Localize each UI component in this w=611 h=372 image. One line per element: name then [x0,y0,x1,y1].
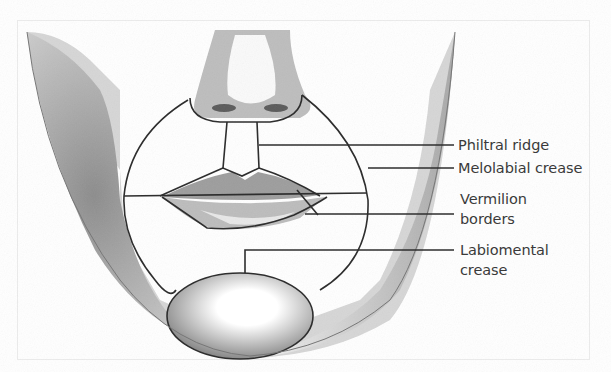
labiomental-ellipse [167,273,313,359]
label-labiomental-crease-line2: crease [460,260,507,280]
face-illustration [0,0,611,372]
label-labiomental-crease-line1: Labiomental [460,240,549,260]
label-melolabial-crease: Melolabial crease [458,158,582,178]
label-vermilion-borders-line1: Vermilion [460,189,527,209]
label-philtral-ridge: Philtral ridge [458,135,549,155]
label-vermilion-borders-line2: borders [460,209,515,229]
